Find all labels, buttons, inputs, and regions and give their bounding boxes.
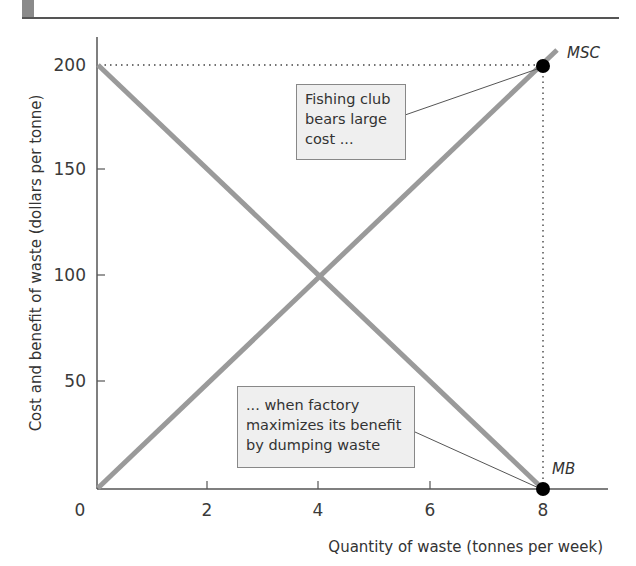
mb-label: MB <box>552 460 575 478</box>
callout-fishing-club: Fishing club bears large cost ... <box>296 84 406 160</box>
x-tick-label-4: 4 <box>313 500 324 520</box>
x-tick-label-0: 0 <box>75 500 86 520</box>
callout-leader-bottom <box>415 432 541 489</box>
mb-point <box>536 482 550 496</box>
msc-point <box>536 59 550 73</box>
x-axis-title: Quantity of waste (tonnes per week) <box>328 538 603 556</box>
y-tick-label-50: 50 <box>64 371 86 391</box>
callout-factory: ... when factory maximizes its benefit b… <box>237 386 415 468</box>
y-axis-title: Cost and benefit of waste (dollars per t… <box>27 95 45 432</box>
msc-label: MSC <box>567 44 600 62</box>
x-tick-label-6: 6 <box>425 500 436 520</box>
y-tick-label-150: 150 <box>54 159 86 179</box>
x-tick-label-2: 2 <box>202 500 213 520</box>
y-tick-label-200: 200 <box>54 55 86 75</box>
y-tick-label-100: 100 <box>54 265 86 285</box>
x-ticks <box>207 481 430 489</box>
y-ticks <box>97 169 105 381</box>
callout-leader-top <box>405 67 543 115</box>
x-tick-label-8: 8 <box>538 500 549 520</box>
